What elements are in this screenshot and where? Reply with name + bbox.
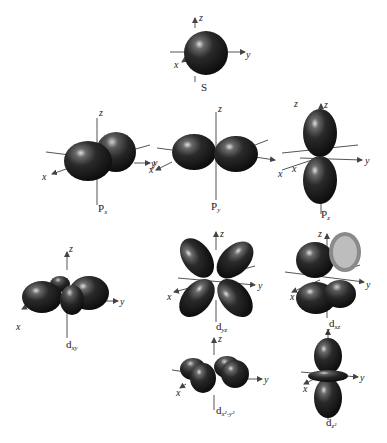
- dxy-lobe-left: [22, 281, 62, 313]
- dxz-lobe-top-left: [296, 242, 334, 278]
- orbital-dz2: z y x dz²: [301, 325, 365, 430]
- x-label: x: [173, 59, 179, 70]
- x-label: x: [289, 291, 295, 302]
- y-label: y: [365, 279, 371, 290]
- orbital-label-dxz: dxz: [329, 317, 341, 331]
- orbital-dx2-y2: z y x dx²-y²: [172, 333, 269, 418]
- x-axis-arrow: [156, 162, 172, 170]
- y-label: y: [257, 280, 263, 291]
- orbital-px: y x Px: [41, 118, 156, 216]
- orbital-pz: z y x Pz: [277, 99, 370, 222]
- z-label: z: [325, 325, 330, 336]
- pz-lobe-bottom: [303, 156, 337, 204]
- x-axis-arrow: [180, 384, 186, 388]
- z-label: z: [217, 333, 222, 344]
- y-label: y: [263, 374, 269, 385]
- orbital-py: y Py: [152, 112, 275, 214]
- dxy-lobe-front: [60, 285, 84, 315]
- x-label: x: [302, 383, 308, 394]
- orbital-dxz: z y x dxz: [285, 228, 371, 331]
- py-lobe-right: [214, 136, 258, 172]
- py-lobe-left: [172, 134, 216, 170]
- z-label: z: [219, 228, 224, 239]
- orbital-label-dxy: dxy: [66, 338, 79, 352]
- orbital-s: z y x S: [170, 12, 251, 93]
- z-label: z: [323, 99, 328, 110]
- z-label: z: [68, 243, 73, 254]
- orbital-label-py: Py: [211, 200, 221, 214]
- pz-lobe-top: [303, 109, 337, 157]
- z-label: z: [317, 228, 322, 239]
- orbital-label-dz2: dz²: [326, 416, 337, 430]
- y-label: y: [359, 372, 365, 383]
- dz2-lobe-bottom: [314, 378, 342, 418]
- orbital-diagram: z y x S y x Px y Py z y: [0, 0, 387, 443]
- x-label: x: [291, 163, 297, 174]
- orbital-label-s: S: [201, 81, 207, 93]
- x-label: x: [148, 164, 154, 175]
- y-label: y: [364, 155, 370, 166]
- dxz-lobe-bottom-right: [324, 280, 356, 308]
- z-label: z: [293, 98, 298, 109]
- dx2y2-lobe-front-left: [190, 363, 216, 393]
- orbital-label-dx2-y2: dx²-y²: [216, 404, 235, 418]
- z-label: z: [198, 12, 203, 23]
- orbital-label-dyz: dyz: [216, 320, 228, 334]
- orbital-label-pz: Pz: [321, 208, 330, 222]
- dyz-lobe-1: [173, 232, 221, 284]
- axis-line: [157, 148, 172, 150]
- dxz-lobe-highlight: [333, 236, 357, 268]
- orbital-dyz: z y x dyz: [166, 228, 263, 334]
- y-label: y: [119, 296, 125, 307]
- orbital-dxy: y x dxy: [15, 252, 125, 352]
- x-label: x: [166, 291, 172, 302]
- dz2-torus: [308, 370, 348, 382]
- y-axis-arrow: [178, 278, 255, 285]
- s-lobe: [184, 31, 228, 75]
- z-label: z: [98, 107, 103, 118]
- y-axis-arrow: [300, 158, 362, 160]
- dyz-lobe-2: [210, 235, 261, 286]
- y-label: y: [245, 49, 251, 60]
- x-label: x: [277, 168, 283, 179]
- y-axis-arrow: [255, 157, 275, 160]
- orbital-label-px: Px: [98, 202, 108, 216]
- dyz-lobe-4: [210, 272, 260, 324]
- x-label: x: [175, 387, 181, 398]
- axis-line: [255, 140, 268, 145]
- dx2y2-lobe-front-right: [221, 360, 249, 388]
- z-label: z: [217, 103, 222, 114]
- x-label: x: [41, 171, 47, 182]
- px-lobe-front: [64, 141, 112, 181]
- dz2-lobe-top: [314, 338, 342, 374]
- x-label: x: [15, 321, 21, 332]
